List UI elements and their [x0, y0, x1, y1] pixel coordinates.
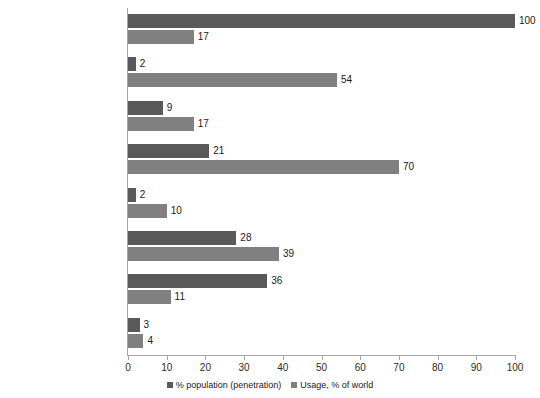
chart-category-group: Latin America / Caribbean917: [128, 101, 515, 144]
chart-bar-value-label: 2: [140, 188, 146, 202]
chart-bar: [128, 334, 143, 348]
chart-bar-value-label: 17: [198, 30, 209, 44]
legend-label: % population (penetration): [176, 380, 282, 390]
chart-bar-value-label: 10: [171, 204, 182, 218]
chart-bar-value-label: 3: [144, 318, 150, 332]
chart-bar: [128, 231, 236, 245]
x-axis-tick-label: 50: [302, 362, 342, 373]
chart-bar: [128, 160, 399, 174]
legend-swatch-icon: [167, 382, 173, 388]
chart-bar-value-label: 39: [283, 247, 294, 261]
chart-bar: [128, 144, 209, 158]
legend-entry[interactable]: % population (penetration): [167, 380, 282, 390]
chart-legend: % population (penetration)Usage, % of wo…: [0, 380, 540, 390]
legend-swatch-icon: [291, 382, 297, 388]
chart-bar: [128, 117, 194, 131]
chart-bar-value-label: 54: [341, 73, 352, 87]
x-axis-tick-label: 60: [340, 362, 380, 373]
chart-bar: [128, 204, 167, 218]
chart-bar: [128, 247, 279, 261]
chart-bar: [128, 188, 136, 202]
chart-category-group: Oceania / Australia254: [128, 57, 515, 100]
x-axis-tick-label: 70: [379, 362, 419, 373]
chart-bar-value-label: 100: [519, 14, 536, 28]
x-axis-tick-label: 0: [108, 362, 148, 373]
chart-bar: [128, 57, 136, 71]
legend-label: Usage, % of world: [300, 380, 373, 390]
chart-bar: [128, 290, 171, 304]
chart-category-group: World total10017: [128, 14, 515, 57]
chart-bar-value-label: 70: [403, 160, 414, 174]
chart-bar-value-label: 2: [140, 57, 146, 71]
x-axis-tick-label: 30: [224, 362, 264, 373]
chart-title: [0, 0, 540, 2]
chart-bar-value-label: 36: [271, 274, 282, 288]
x-axis-tick-mark: [515, 356, 516, 360]
chart-bar-value-label: 21: [213, 144, 224, 158]
chart-category-group: Africa34: [128, 318, 515, 361]
chart-bar: [128, 101, 163, 115]
bar-chart: 0102030405060708090100 World total10017O…: [0, 0, 540, 398]
chart-category-group: Asia3611: [128, 274, 515, 317]
x-axis-tick-label: 80: [418, 362, 458, 373]
x-axis-tick-label: 40: [263, 362, 303, 373]
chart-category-group: Europe2839: [128, 231, 515, 274]
x-axis-tick-label: 100: [495, 362, 535, 373]
chart-bar: [128, 14, 515, 28]
chart-bar: [128, 73, 337, 87]
chart-bar-value-label: 4: [147, 334, 153, 348]
x-axis-tick-label: 90: [456, 362, 496, 373]
chart-category-group: North America2170: [128, 144, 515, 187]
chart-bar-value-label: 17: [198, 117, 209, 131]
chart-bar: [128, 274, 267, 288]
x-axis-tick-label: 20: [185, 362, 225, 373]
legend-entry[interactable]: Usage, % of world: [291, 380, 373, 390]
chart-bar-value-label: 28: [240, 231, 251, 245]
x-axis-tick-label: 10: [147, 362, 187, 373]
plot-area: World total10017Oceania / Australia254La…: [128, 8, 515, 355]
chart-category-group: Middle East210: [128, 188, 515, 231]
chart-bar: [128, 30, 194, 44]
chart-bar: [128, 318, 140, 332]
chart-bar-value-label: 9: [167, 101, 173, 115]
chart-bar-value-label: 11: [175, 290, 185, 304]
